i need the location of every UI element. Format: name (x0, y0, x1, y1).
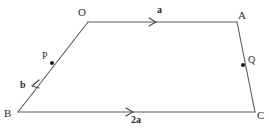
vector-label-a: a (157, 5, 162, 15)
vertex-label-A: A (238, 10, 246, 21)
diagram-canvas (0, 0, 269, 132)
vertex-label-B: B (4, 108, 11, 119)
edge-A-to-C (237, 22, 255, 112)
vertex-label-O: O (78, 7, 86, 18)
vector-diagram-figure: O A C B P Q a b 2a (0, 0, 269, 132)
vertex-label-C: C (257, 110, 264, 121)
point-label-P: P (42, 51, 48, 61)
vector-label-b: b (20, 80, 26, 90)
edge-B-to-O (18, 22, 88, 112)
vector-label-2a: 2a (131, 115, 141, 125)
point-label-Q: Q (248, 55, 255, 65)
point-P-dot (50, 61, 54, 65)
point-Q-dot (241, 63, 245, 67)
